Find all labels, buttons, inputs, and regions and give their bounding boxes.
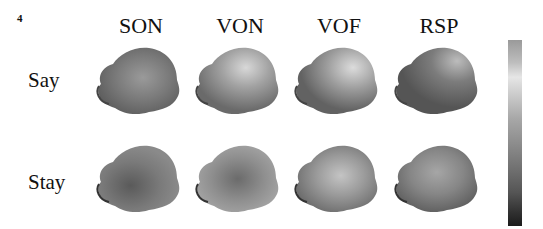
column-label-son: SON [91, 13, 191, 39]
brain-map-say-son [87, 40, 183, 120]
column-label-von: VON [190, 13, 290, 39]
brain-map-stay-vof [285, 138, 381, 218]
brain-map-stay-von [186, 138, 282, 218]
brain-map-stay-son [87, 138, 183, 218]
brain-map-say-vof [285, 40, 381, 120]
panel-number: 4 [17, 12, 23, 24]
brain-map-say-von [186, 40, 282, 120]
column-label-vof: VOF [289, 13, 389, 39]
row-label-say: Say [28, 68, 60, 93]
brain-map-say-rsp [385, 40, 481, 120]
column-label-rsp: RSP [389, 13, 489, 39]
row-label-stay: Stay [28, 170, 65, 195]
brain-map-stay-rsp [385, 138, 481, 218]
colorbar [508, 40, 522, 226]
